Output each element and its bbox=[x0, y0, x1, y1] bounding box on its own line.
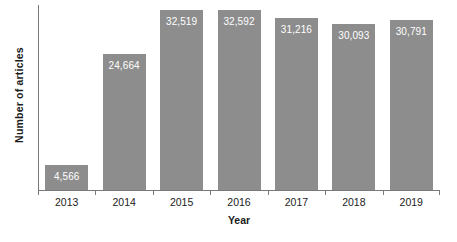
bar bbox=[275, 18, 318, 190]
x-axis-title: Year bbox=[38, 214, 440, 226]
x-axis-tick bbox=[153, 190, 154, 195]
bar-group: 24,664 bbox=[103, 5, 146, 190]
x-axis-tick bbox=[268, 190, 269, 195]
x-axis-tick-labels: 2013201420152016201720182019 bbox=[38, 196, 440, 212]
x-axis-tick-label: 2014 bbox=[95, 196, 152, 208]
x-axis-tick-label: 2017 bbox=[268, 196, 325, 208]
x-axis-tick bbox=[383, 190, 384, 195]
x-axis-tick-label: 2015 bbox=[153, 196, 210, 208]
bar-group: 32,519 bbox=[160, 5, 203, 190]
bar bbox=[103, 54, 146, 190]
x-axis-tick-label: 2018 bbox=[325, 196, 382, 208]
x-axis-tick bbox=[95, 190, 96, 195]
y-axis-title: Number of articles bbox=[8, 0, 30, 190]
bar bbox=[332, 24, 375, 190]
x-axis-tick-label: 2013 bbox=[38, 196, 95, 208]
x-axis-tick bbox=[439, 190, 440, 195]
bar-chart: Number of articles 4,56624,66432,51932,5… bbox=[0, 0, 457, 242]
bar bbox=[160, 10, 203, 190]
bar bbox=[45, 165, 88, 190]
bar-group: 30,791 bbox=[390, 5, 433, 190]
x-axis-tick bbox=[210, 190, 211, 195]
plot-area: 4,56624,66432,51932,59231,21630,09330,79… bbox=[38, 5, 440, 190]
x-axis-tick-label: 2016 bbox=[210, 196, 267, 208]
bar bbox=[390, 20, 433, 190]
bar-group: 31,216 bbox=[275, 5, 318, 190]
bar-group: 30,093 bbox=[332, 5, 375, 190]
x-axis-tick bbox=[325, 190, 326, 195]
bar-group: 4,566 bbox=[45, 5, 88, 190]
bars-layer: 4,56624,66432,51932,59231,21630,09330,79… bbox=[38, 5, 440, 190]
x-axis-tick-label: 2019 bbox=[383, 196, 440, 208]
bar-group: 32,592 bbox=[218, 5, 261, 190]
x-axis-tick bbox=[38, 190, 39, 195]
y-axis-title-text: Number of articles bbox=[13, 47, 25, 143]
bar bbox=[218, 10, 261, 190]
